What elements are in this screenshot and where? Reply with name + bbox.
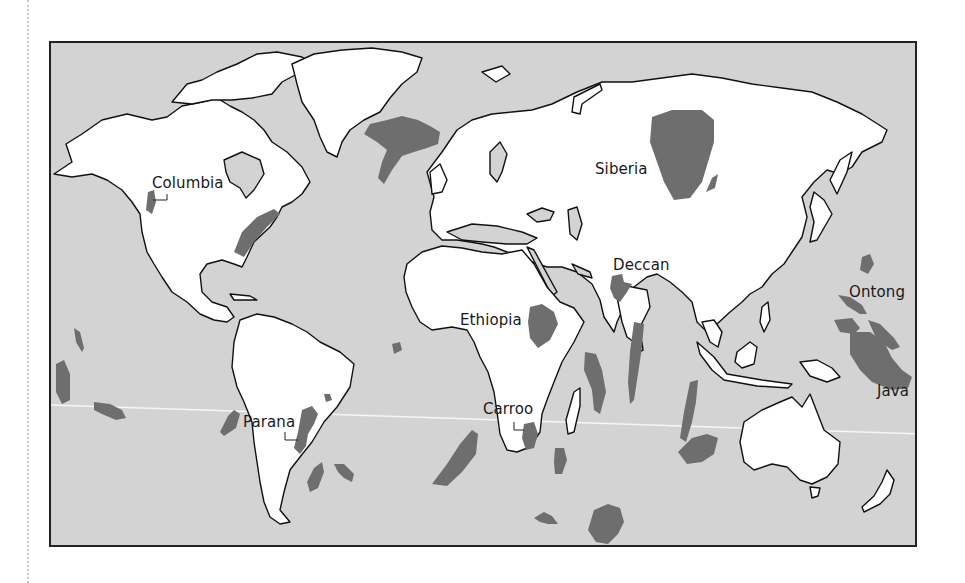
svalbard (482, 66, 510, 82)
map-canvas (51, 43, 917, 547)
province-ontong-arc2 (834, 318, 860, 334)
province-agulhas (554, 448, 567, 474)
province-maud-rise (534, 512, 558, 524)
world-map: Columbia Siberia Deccan Ethiopia Ontong … (49, 41, 917, 547)
province-mascarene (584, 352, 606, 414)
new-zealand (862, 470, 894, 512)
philippines (760, 302, 770, 332)
province-pacific-2 (56, 360, 70, 404)
province-south-atlantic-2 (334, 464, 354, 482)
province-ninetyeast (680, 380, 698, 442)
province-walvis (432, 430, 478, 486)
japan (810, 192, 832, 242)
label-columbia: Columbia (152, 174, 224, 192)
southeast-asia (702, 320, 722, 347)
label-ontong: Ontong (849, 283, 905, 301)
label-carroo: Carroo (483, 400, 533, 418)
province-ontong-north (860, 254, 874, 274)
arctic-islands (172, 52, 312, 104)
label-siberia: Siberia (595, 160, 648, 178)
page-margin-rule (27, 0, 29, 583)
province-caribbean-dot (392, 342, 402, 354)
province-parana-offshore (220, 410, 240, 436)
borneo (735, 342, 757, 368)
province-kerguelen-plateau (588, 504, 624, 544)
label-deccan: Deccan (613, 256, 670, 274)
cuba (230, 294, 257, 300)
label-ethiopia: Ethiopia (460, 311, 522, 329)
label-java: Java (877, 382, 909, 400)
province-pacific-1 (74, 328, 84, 352)
province-pacific-3 (94, 402, 126, 420)
africa (404, 246, 584, 452)
province-rio-grande (307, 462, 324, 492)
north-america (54, 98, 310, 322)
australia (740, 394, 840, 484)
tasmania (810, 487, 820, 498)
label-parana: Parana (243, 413, 295, 431)
madagascar (566, 388, 580, 434)
new-guinea (800, 360, 840, 382)
